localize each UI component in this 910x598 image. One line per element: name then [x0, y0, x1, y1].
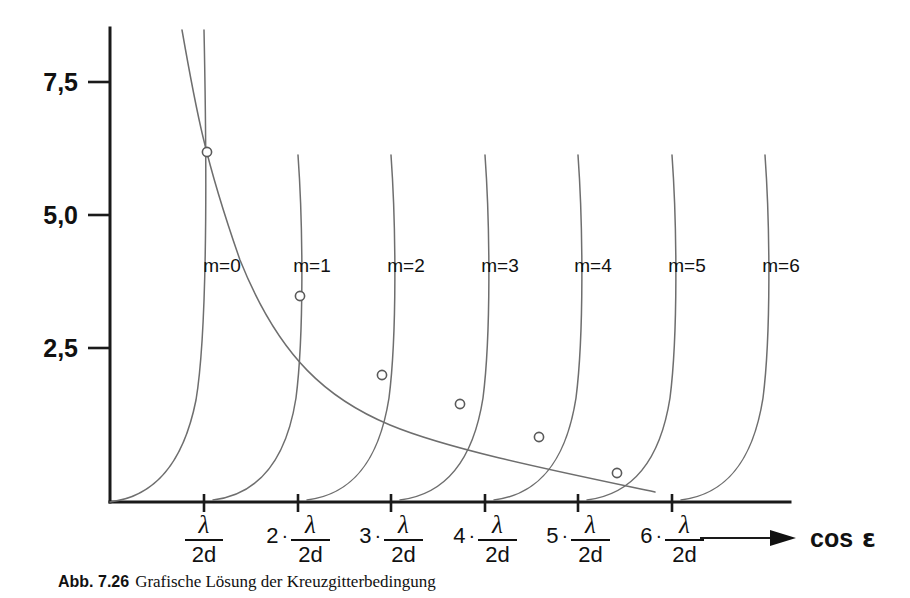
curve-label-m-4: m=4: [574, 255, 612, 276]
curve-label-m-1: m=1: [293, 255, 331, 276]
curve-m-3: [400, 155, 489, 500]
caption-number: Abb. 7.26: [58, 573, 129, 590]
fraction-coefficient: 2: [266, 512, 278, 547]
y-tick-label-7,5: 7,5: [43, 68, 78, 96]
caption-text: Grafische Lösung der Kreuzgitterbedingun…: [135, 572, 436, 591]
curve-label-m-2: m=2: [387, 255, 425, 276]
figure-caption: Abb. 7.26Grafische Lösung der Kreuzgitte…: [58, 572, 878, 592]
lambda-over-2d-fraction: λ2d: [665, 512, 703, 566]
lambda-over-2d-fraction: λ2d: [185, 512, 223, 566]
fraction-coefficient: 5: [546, 512, 558, 547]
lambda-over-2d-fraction: λ2d: [478, 512, 516, 566]
intersection-point-4: [534, 432, 543, 441]
curve-m-1: [213, 155, 302, 500]
multiplication-dot-icon: ·: [279, 512, 292, 545]
fraction-coefficient: 3: [359, 512, 371, 547]
curve-label-m-6: m=6: [762, 255, 800, 276]
x-tick-fraction-6: 6·λ2d: [612, 512, 732, 566]
intersection-point-5: [612, 468, 621, 477]
figure-container: 7,55,02,5 m=0m=1m=2m=3m=4m=5m=6 cos ε λ2…: [0, 0, 910, 598]
curve-m-4: [494, 155, 582, 500]
fraction-numerator: λ: [391, 512, 416, 539]
y-tick-labels: 7,55,02,5: [43, 68, 78, 362]
y-tick-label-2,5: 2,5: [43, 334, 78, 362]
multiplication-dot-icon: ·: [653, 512, 666, 545]
fraction-coefficient: 6: [640, 512, 652, 547]
intersection-point-2: [377, 370, 386, 379]
lambda-over-2d-fraction: λ2d: [384, 512, 422, 566]
lambda-over-2d-fraction: λ2d: [291, 512, 329, 566]
y-tick-group: [88, 82, 110, 348]
multiplication-dot-icon: ·: [466, 512, 479, 545]
fraction-denominator: 2d: [185, 541, 223, 566]
curve-m-2: [307, 155, 395, 500]
fraction-numerator: λ: [485, 512, 510, 539]
epsilon-symbol: ε: [862, 524, 876, 553]
fraction-numerator: λ: [578, 512, 603, 539]
fraction-coefficient: 4: [453, 512, 465, 547]
fraction-denominator: 2d: [571, 541, 609, 566]
y-tick-label-5,0: 5,0: [43, 201, 78, 229]
multiplication-dot-icon: ·: [559, 512, 572, 545]
fraction-denominator: 2d: [478, 541, 516, 566]
curve-label-m-3: m=3: [481, 255, 519, 276]
lambda-over-2d-fraction: λ2d: [571, 512, 609, 566]
x-axis-name: cos: [810, 524, 853, 552]
plot-canvas: 7,55,02,5 m=0m=1m=2m=3m=4m=5m=6 cos ε: [0, 0, 910, 598]
curve-m-6: [681, 155, 769, 500]
multiplication-dot-icon: ·: [372, 512, 385, 545]
fraction-numerator: λ: [672, 512, 697, 539]
intersection-point-1: [295, 291, 304, 300]
intersection-point-0: [202, 147, 211, 156]
curve-label-m-5: m=5: [668, 255, 706, 276]
fraction-denominator: 2d: [665, 541, 703, 566]
curve-m-0: [110, 30, 206, 502]
curve-label-m-0: m=0: [203, 255, 241, 276]
fraction-denominator: 2d: [384, 541, 422, 566]
fraction-numerator: λ: [298, 512, 323, 539]
intersection-point-3: [455, 399, 464, 408]
fraction-denominator: 2d: [291, 541, 329, 566]
curve-labels: m=0m=1m=2m=3m=4m=5m=6: [203, 255, 800, 276]
curve-m-5: [587, 155, 676, 500]
fraction-numerator: λ: [192, 512, 217, 539]
